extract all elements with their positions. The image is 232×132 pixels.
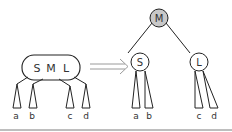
subtree-b-triangle <box>29 84 37 108</box>
double-arrow-icon <box>90 59 128 74</box>
root-key: M <box>155 13 164 24</box>
label-d: d <box>211 111 217 121</box>
label-a: a <box>13 111 19 121</box>
key-l: L <box>63 62 70 75</box>
subtree-c-triangle <box>66 86 74 108</box>
label-b: b <box>29 111 35 121</box>
subtree-a-triangle <box>132 71 140 108</box>
subtree-c-triangle <box>195 71 203 108</box>
child-key-s: S <box>137 57 143 68</box>
right-tree: M S L a b c d <box>128 9 218 121</box>
diagram-canvas: S M L a b c d M S L <box>0 0 232 132</box>
key-m: M <box>46 62 56 75</box>
label-a: a <box>133 111 139 121</box>
subtree-a-triangle <box>13 84 21 108</box>
key-s: S <box>34 62 41 75</box>
label-d: d <box>83 111 89 121</box>
label-c: c <box>68 111 73 121</box>
child-key-l: L <box>196 57 202 68</box>
subtree-d-triangle <box>82 84 90 108</box>
label-c: c <box>197 111 202 121</box>
subtree-d-triangle <box>203 71 218 108</box>
subtree-b-triangle <box>145 71 153 108</box>
left-tree: S M L a b c d <box>13 55 90 121</box>
label-b: b <box>146 111 152 121</box>
